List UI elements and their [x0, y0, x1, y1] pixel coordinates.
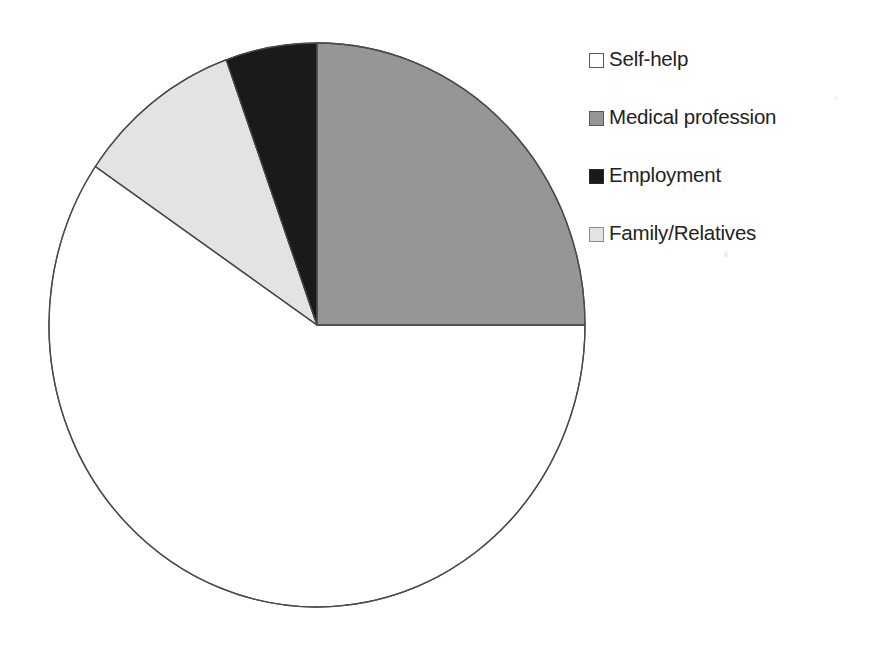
legend-item-family-relatives[interactable]: Family/Relatives	[589, 221, 879, 246]
pie-chart-plot-area	[0, 0, 620, 646]
legend-label-medical-profession: Medical profession	[609, 107, 776, 128]
pie-slice-medical-profession[interactable]	[317, 43, 585, 325]
legend-item-self-help[interactable]: Self-help	[589, 47, 879, 72]
legend-label-family-relatives: Family/Relatives	[609, 223, 756, 244]
pie-chart-svg	[0, 0, 620, 646]
legend-swatch-icon-medical-profession	[589, 111, 604, 126]
pie-chart-figure: Self-help Medical profession Employment …	[0, 0, 881, 646]
legend-swatch-icon-self-help	[589, 53, 604, 68]
legend-label-employment: Employment	[609, 165, 721, 186]
chart-legend: Self-help Medical profession Employment …	[589, 47, 879, 279]
legend-swatch-icon-employment	[589, 169, 604, 184]
legend-label-self-help: Self-help	[609, 49, 688, 70]
legend-item-employment[interactable]: Employment	[589, 163, 879, 188]
legend-item-medical-profession[interactable]: Medical profession	[589, 105, 879, 130]
legend-swatch-icon-family-relatives	[589, 227, 604, 242]
